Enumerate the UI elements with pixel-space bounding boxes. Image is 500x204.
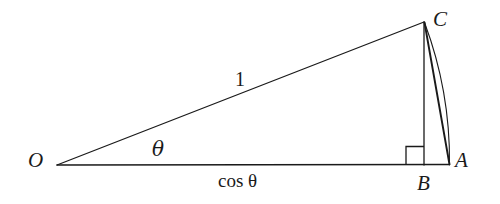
hypotenuse-length-label: 1: [235, 69, 245, 89]
angle-theta-label: θ: [152, 139, 164, 159]
baseline-O-to-A: [57, 165, 450, 166]
ray-O-to-C: [57, 22, 424, 165]
vertex-label-B: B: [417, 173, 430, 194]
geometry-diagram: O C A B 1 θ cos θ: [0, 0, 500, 204]
vertex-label-A: A: [455, 150, 468, 171]
base-length-label: cos θ: [218, 171, 257, 190]
right-angle-at-B: [406, 147, 424, 165]
vertex-label-C: C: [433, 9, 447, 30]
chord-C-to-A: [425, 23, 450, 165]
vertex-label-O: O: [28, 150, 43, 171]
